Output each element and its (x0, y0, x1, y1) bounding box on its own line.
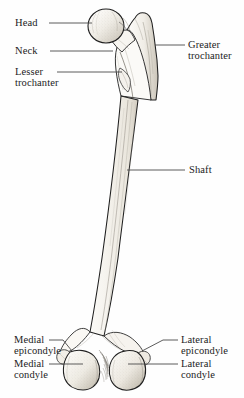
leader-lateral-epicondyle (142, 340, 163, 351)
label-lesser-trochanter-line1: Lesser (15, 66, 43, 78)
label-shaft: Shaft (189, 164, 212, 176)
medial-condyle (63, 350, 101, 390)
label-neck: Neck (15, 45, 38, 57)
label-head: Head (15, 17, 38, 29)
lateral-condyle (109, 350, 146, 390)
label-medial-epicondyle-line1: Medial (14, 334, 44, 346)
label-lateral-epicondyle-line1: Lateral (181, 334, 211, 346)
label-lateral-condyle-line1: Lateral (181, 358, 211, 370)
label-lesser-trochanter-line2: trochanter (15, 77, 59, 89)
label-medial-epicondyle-line2: epicondyle (14, 345, 61, 357)
label-medial-condyle-line1: Medial (14, 358, 44, 370)
label-greater-trochanter-line1: Greater (188, 39, 220, 51)
label-lateral-condyle-line2: condyle (181, 369, 215, 381)
label-medial-condyle-line2: condyle (14, 369, 48, 381)
femoral-shaft (90, 96, 138, 336)
label-lateral-epicondyle-line2: epicondyle (181, 345, 228, 357)
figure-canvas: Head Neck Lesser trochanter Greater troc… (0, 0, 244, 398)
label-greater-trochanter-line2: trochanter (188, 50, 232, 62)
